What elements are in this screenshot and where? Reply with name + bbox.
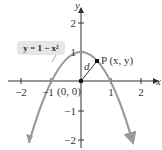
y-tick-label: 1: [71, 46, 77, 58]
origin-point: [79, 79, 84, 84]
parabola-diagram: y = 1 − x² P (x, y) d (0, 0) x y −2 −1 1…: [0, 0, 162, 150]
callout-pointer: [52, 55, 56, 62]
y-tick-label: 2: [71, 17, 77, 29]
point-label: P (x, y): [101, 54, 134, 67]
x-tick-label: −1: [42, 86, 54, 98]
equation-label: y = 1 − x²: [23, 43, 59, 53]
distance-label: d: [84, 60, 90, 72]
x-tick-label: 1: [108, 86, 114, 98]
point-p: [95, 59, 99, 63]
y-tick-label: −1: [64, 105, 76, 117]
x-tick-label: 2: [138, 86, 144, 98]
x-axis-label: x: [155, 75, 161, 87]
y-axis-label: y: [74, 0, 80, 11]
x-tick-label: −2: [15, 86, 27, 98]
origin-label: (0, 0): [57, 85, 81, 98]
y-tick-label: −2: [64, 134, 76, 146]
